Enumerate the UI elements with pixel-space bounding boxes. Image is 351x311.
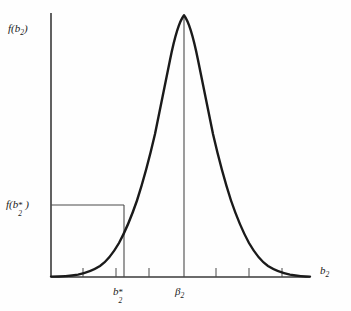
normal-density-curve <box>51 15 310 276</box>
y-axis-label-sub: 2 <box>20 28 24 37</box>
f-b2-star-label-sub: 2 <box>18 210 22 218</box>
f-b2-star-label-paren-close: ) <box>25 198 29 210</box>
x-axis-label-b: b <box>320 264 326 276</box>
beta2-label: β2 <box>175 286 184 297</box>
f-b2-star-label: f(b*2) <box>6 199 29 210</box>
y-axis-label-paren-close: ) <box>24 22 28 34</box>
b2-star-label-sub: 2 <box>119 297 123 305</box>
b2-star-label: b*2 <box>113 286 124 297</box>
density-curve-figure <box>0 0 351 311</box>
x-axis-ticks <box>83 268 282 277</box>
x-axis-label: b2 <box>320 265 329 276</box>
beta2-label-sub: 2 <box>180 291 184 300</box>
x-axis-label-sub: 2 <box>326 270 330 279</box>
y-axis-label: f(b2) <box>8 23 28 34</box>
